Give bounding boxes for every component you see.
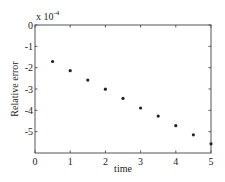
y-tick-label: -3: [25, 84, 33, 95]
data-point: [174, 124, 177, 127]
data-point: [121, 97, 124, 100]
x-axis-ticks: 012345: [33, 25, 214, 167]
axes-box: [35, 25, 211, 153]
data-point: [192, 133, 195, 136]
data-point: [86, 78, 89, 81]
x-tick-label: 0: [33, 156, 38, 167]
data-point: [104, 88, 107, 91]
y-axis-ticks: 0-1-2-3-4-5: [25, 20, 211, 138]
data-point: [209, 142, 212, 145]
plot-area: [35, 25, 211, 153]
scatter-chart: 012345 0-1-2-3-4-5 x 10-4 time Relative …: [0, 0, 225, 182]
y-exponent-power: -4: [54, 9, 60, 17]
data-point: [51, 60, 54, 63]
y-tick-label: -5: [25, 126, 33, 137]
y-exponent-label: x 10-4: [36, 9, 60, 22]
y-tick-label: -2: [25, 62, 33, 73]
x-tick-label: 5: [209, 156, 214, 167]
y-tick-label: 0: [28, 20, 33, 31]
x-tick-label: 3: [138, 156, 143, 167]
x-tick-label: 1: [68, 156, 73, 167]
data-point: [139, 106, 142, 109]
x-tick-label: 2: [103, 156, 108, 167]
y-tick-label: -4: [25, 105, 33, 116]
x-axis-label: time: [114, 163, 132, 174]
data-point: [157, 114, 160, 117]
data-markers: [51, 60, 213, 146]
data-point: [69, 69, 72, 72]
y-axis-label: Relative error: [9, 61, 20, 117]
x-tick-label: 4: [173, 156, 178, 167]
y-tick-label: -1: [25, 41, 33, 52]
